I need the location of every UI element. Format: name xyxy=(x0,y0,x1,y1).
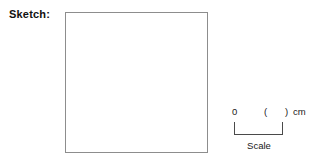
scale-bar-baseline xyxy=(234,134,283,135)
scale-legend: 0 ( ) cm Scale xyxy=(228,104,328,162)
sketch-worksheet: Sketch: 0 ( ) cm Scale xyxy=(0,0,334,166)
scale-zero-label: 0 xyxy=(232,106,237,117)
sketch-label: Sketch: xyxy=(9,8,50,21)
scale-bar xyxy=(234,122,283,135)
scale-unit-label: cm xyxy=(293,106,306,117)
scale-value-paren-open: ( xyxy=(264,106,267,117)
scale-caption: Scale xyxy=(228,140,290,151)
scale-bar-tick-right xyxy=(282,122,283,135)
sketch-drawing-area[interactable] xyxy=(65,12,208,153)
scale-value-paren-close: ) xyxy=(285,106,288,117)
